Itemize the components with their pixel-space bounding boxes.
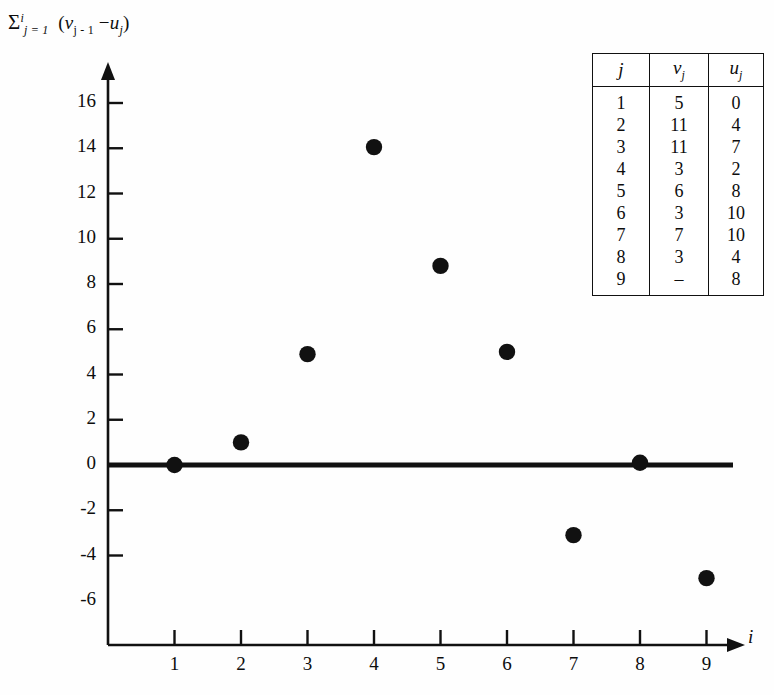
x-tick-label: 2: [226, 653, 256, 675]
data-table: j vj uj 15021143117432568631077108349–8: [592, 53, 764, 296]
header-base: j: [618, 59, 623, 80]
x-tick-label: 1: [160, 653, 190, 675]
cell-v: 3: [650, 246, 709, 268]
y-tick-label: -4: [50, 543, 96, 565]
header-subscript: j: [739, 68, 742, 82]
header-cell-j: j: [593, 54, 650, 87]
table-row: 432: [593, 158, 763, 180]
chart-figure: Σij = 1 (vj - 1 −uj) -6-4-20246810121416…: [0, 0, 774, 695]
x-axis-arrow: [727, 638, 745, 652]
cell-u: 7: [709, 136, 764, 158]
cell-j: 3: [593, 136, 650, 158]
cell-v: 5: [650, 87, 709, 115]
cell-u: 8: [709, 268, 764, 295]
x-tick-label: 4: [359, 653, 389, 675]
data-point: [299, 346, 315, 362]
cell-v: –: [650, 268, 709, 295]
data-point: [632, 455, 648, 471]
cell-j: 4: [593, 158, 650, 180]
cell-u: 0: [709, 87, 764, 115]
table-row: 9–8: [593, 268, 763, 295]
data-point: [432, 258, 448, 274]
table-row: 834: [593, 246, 763, 268]
x-tick-label: 3: [293, 653, 323, 675]
y-axis-arrow: [101, 62, 115, 80]
y-tick-label: -2: [50, 497, 96, 519]
x-axis-label: i: [748, 626, 753, 648]
cell-u: 10: [709, 202, 764, 224]
cell-j: 5: [593, 180, 650, 202]
x-tick-label: 7: [559, 653, 589, 675]
table-header-row: j vj uj: [593, 54, 763, 87]
y-tick-label: 10: [50, 226, 96, 248]
data-point: [166, 457, 182, 473]
table-row: 3117: [593, 136, 763, 158]
cell-v: 3: [650, 202, 709, 224]
cell-u: 4: [709, 114, 764, 136]
table-row: 7710: [593, 224, 763, 246]
x-tick-label: 6: [492, 653, 522, 675]
header-cell-v: vj: [650, 54, 709, 87]
cell-j: 7: [593, 224, 650, 246]
cell-j: 9: [593, 268, 650, 295]
y-tick-label: 8: [50, 271, 96, 293]
cell-j: 6: [593, 202, 650, 224]
x-tick-label: 9: [692, 653, 722, 675]
data-point: [233, 434, 249, 450]
y-tick-label: 2: [50, 407, 96, 429]
y-tick-label: 0: [50, 452, 96, 474]
y-tick-label: 16: [50, 90, 96, 112]
header-subscript: j: [682, 68, 685, 82]
table-row: 150: [593, 87, 763, 115]
header-base: u: [730, 57, 740, 78]
cell-u: 8: [709, 180, 764, 202]
cell-j: 1: [593, 87, 650, 115]
header-base: v: [673, 57, 681, 78]
data-point: [366, 139, 382, 155]
data-point: [565, 527, 581, 543]
cell-j: 8: [593, 246, 650, 268]
cell-v: 3: [650, 158, 709, 180]
table-row: 568: [593, 180, 763, 202]
y-tick-label: 12: [50, 181, 96, 203]
cell-v: 7: [650, 224, 709, 246]
table-body: 15021143117432568631077108349–8: [593, 87, 763, 296]
y-tick-label: -6: [50, 588, 96, 610]
y-tick-label: 4: [50, 362, 96, 384]
data-point: [698, 570, 714, 586]
cell-j: 2: [593, 114, 650, 136]
x-tick-label: 8: [625, 653, 655, 675]
cell-u: 10: [709, 224, 764, 246]
cell-v: 6: [650, 180, 709, 202]
cell-u: 4: [709, 246, 764, 268]
y-tick-label: 6: [50, 316, 96, 338]
cell-u: 2: [709, 158, 764, 180]
table-row: 6310: [593, 202, 763, 224]
cell-v: 11: [650, 136, 709, 158]
y-tick-label: 14: [50, 135, 96, 157]
x-tick-label: 5: [426, 653, 456, 675]
header-cell-u: uj: [709, 54, 764, 87]
data-point: [499, 344, 515, 360]
table-row: 2114: [593, 114, 763, 136]
cell-v: 11: [650, 114, 709, 136]
